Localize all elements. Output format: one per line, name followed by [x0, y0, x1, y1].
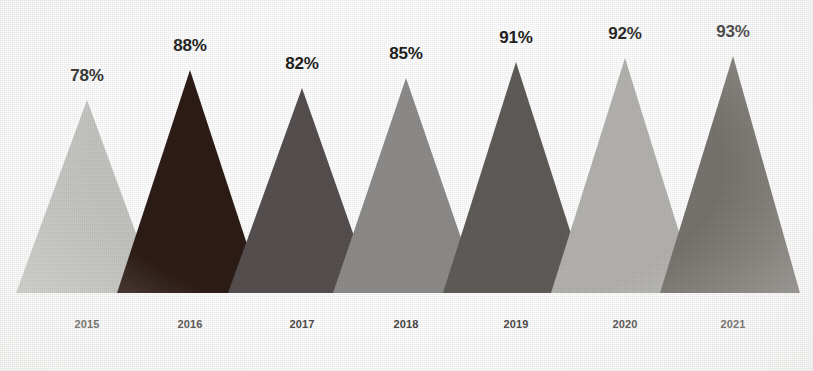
year-label-2017: 2017 [290, 318, 315, 330]
value-label-2016: 88% [173, 36, 206, 56]
year-label-2015: 2015 [75, 318, 100, 330]
year-label-2016: 2016 [178, 318, 203, 330]
chart-root: 78%88%82%85%91%92%93% 201520162017201820… [0, 0, 813, 371]
value-label-2021: 93% [716, 22, 749, 42]
value-label-2018: 85% [389, 44, 422, 64]
value-label-2020: 92% [608, 24, 641, 44]
triangle-series-group [16, 56, 800, 293]
value-label-2017: 82% [285, 54, 318, 74]
value-label-2019: 91% [499, 28, 532, 48]
year-label-2021: 2021 [721, 318, 746, 330]
value-label-2015: 78% [70, 66, 103, 86]
triangle-bar-2021 [660, 56, 800, 293]
year-label-2019: 2019 [504, 318, 529, 330]
year-label-2018: 2018 [394, 318, 419, 330]
year-label-2020: 2020 [613, 318, 638, 330]
